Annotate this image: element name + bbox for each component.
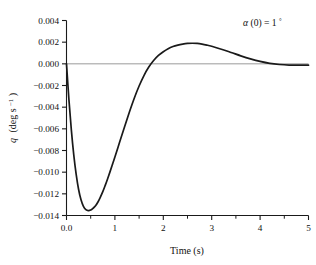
annotation-argument: (0) = 1: [250, 17, 276, 29]
y-tick-label: −0.004: [33, 102, 59, 112]
y-tick-label: 0.002: [38, 37, 59, 47]
y-tick-label: 0.004: [38, 16, 59, 26]
y-axis-title-close-paren: ): [7, 93, 19, 96]
y-tick-label: −0.012: [33, 189, 59, 199]
y-axis-title-symbol: q: [7, 138, 18, 143]
x-tick-label: 0.0: [61, 223, 73, 233]
svg-text:α (0) = 1 °: α (0) = 1 °: [243, 17, 282, 29]
y-axis-title-units: (deg s: [7, 108, 19, 132]
y-tick-label: −0.014: [33, 211, 59, 221]
y-tick-label: −0.008: [33, 146, 59, 156]
x-tick-label: 3: [209, 223, 214, 233]
y-tick-label: 0.000: [38, 59, 59, 69]
x-tick-label: 2: [161, 223, 166, 233]
y-axis-title-exponent: −1: [7, 99, 14, 106]
x-tick-label: 4: [258, 223, 263, 233]
y-tick-label: −0.002: [33, 81, 59, 91]
x-tick-label: 5: [306, 223, 311, 233]
annotation-symbol: α: [243, 17, 249, 28]
line-chart: 0.0040.0020.000−0.002−0.004−0.006−0.008−…: [0, 0, 316, 265]
x-axis-title: Time (s): [170, 245, 204, 257]
y-tick-label: −0.006: [33, 124, 59, 134]
annotation-degree-sign: °: [279, 17, 282, 24]
annotation-alpha-initial: α (0) = 1 °: [243, 17, 282, 29]
figure-container: 0.0040.0020.000−0.002−0.004−0.006−0.008−…: [0, 0, 316, 265]
x-tick-label: 1: [113, 223, 118, 233]
y-tick-label: −0.010: [33, 167, 59, 177]
